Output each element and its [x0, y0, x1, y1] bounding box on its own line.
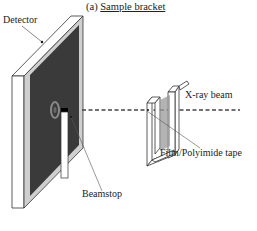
film-sample [160, 95, 170, 151]
saxs-setup-diagram [0, 0, 257, 231]
beamstop-label: Beamstop [82, 188, 122, 199]
detector-leader-line [22, 26, 42, 42]
detector-side-face [12, 76, 24, 208]
film-label: Film/Polyimide tape [160, 147, 242, 158]
beamstop-head [61, 108, 68, 112]
beamstop-rod [61, 112, 68, 178]
detector-label: Detector [3, 14, 37, 25]
xray-beam-label: X-ray beam [185, 89, 232, 100]
